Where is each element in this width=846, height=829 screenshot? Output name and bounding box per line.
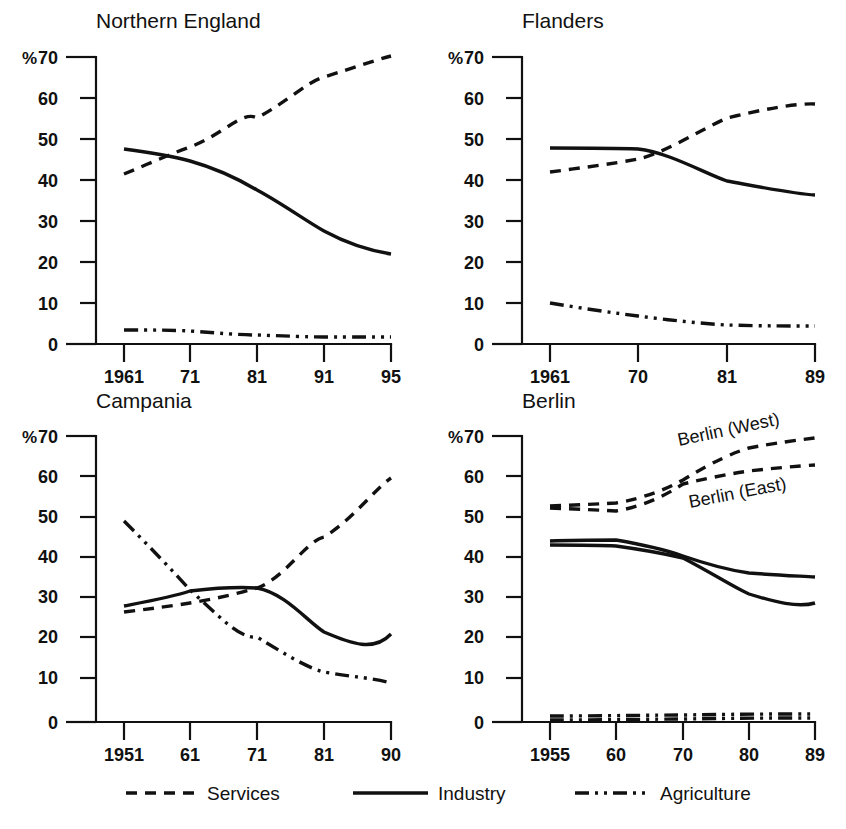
x-tick-label-80: 80 bbox=[739, 745, 759, 765]
x-tick-label-70: 70 bbox=[673, 745, 693, 765]
y-tick-label-20: 20 bbox=[38, 627, 58, 647]
x-tick-label-81: 81 bbox=[247, 367, 267, 387]
x-tick-label-89: 89 bbox=[805, 367, 825, 387]
panel-title-berlin: Berlin bbox=[522, 389, 576, 412]
panel-title-flanders: Flanders bbox=[522, 9, 604, 32]
y-tick-label-30: 30 bbox=[464, 587, 484, 607]
legend-label-agriculture: Agriculture bbox=[660, 783, 751, 804]
legend: Services Industry Agriculture bbox=[126, 783, 751, 804]
x-axis-campania: 1951 61 71 81 90 bbox=[96, 722, 401, 765]
y-tick-label-0: 0 bbox=[48, 335, 58, 355]
x-tick-label-91: 91 bbox=[314, 367, 334, 387]
y-tick-label-70: 70 bbox=[464, 427, 484, 447]
x-tick-label-70: 70 bbox=[628, 367, 648, 387]
series-line-agriculture bbox=[124, 330, 391, 337]
four-panel-line-chart-figure: Northern England % 70 60 50 40 30 20 10 … bbox=[0, 0, 846, 829]
panel-title-northern-england: Northern England bbox=[96, 9, 261, 32]
y-tick-label-40: 40 bbox=[38, 547, 58, 567]
y-axis-unit-label: % bbox=[448, 49, 463, 68]
y-axis-unit-label: % bbox=[22, 49, 37, 68]
y-tick-label-40: 40 bbox=[38, 171, 58, 191]
y-tick-label-0: 0 bbox=[48, 713, 58, 733]
series-line-agriculture-west bbox=[550, 718, 815, 720]
x-tick-label-1955: 1955 bbox=[530, 745, 570, 765]
series-line-industry bbox=[124, 149, 391, 254]
x-axis-northern-england: 1961 71 81 91 95 bbox=[96, 344, 401, 387]
y-tick-label-60: 60 bbox=[464, 89, 484, 109]
y-tick-label-10: 10 bbox=[38, 668, 58, 688]
y-tick-label-10: 10 bbox=[464, 294, 484, 314]
y-axis-unit-label: % bbox=[448, 428, 463, 447]
y-tick-label-40: 40 bbox=[464, 171, 484, 191]
legend-item-agriculture[interactable]: Agriculture bbox=[575, 783, 751, 804]
y-tick-label-70: 70 bbox=[38, 427, 58, 447]
y-tick-label-50: 50 bbox=[38, 130, 58, 150]
legend-item-industry[interactable]: Industry bbox=[353, 783, 506, 804]
y-tick-label-60: 60 bbox=[38, 467, 58, 487]
x-axis-flanders: 1961 70 81 89 bbox=[522, 344, 825, 387]
x-tick-label-1961: 1961 bbox=[530, 367, 570, 387]
y-tick-label-40: 40 bbox=[464, 547, 484, 567]
series-line-agriculture bbox=[124, 521, 391, 683]
panel-flanders: Flanders % 70 60 50 40 30 20 10 0 bbox=[448, 9, 825, 387]
series-line-industry bbox=[124, 588, 391, 645]
x-tick-label-89: 89 bbox=[805, 745, 825, 765]
y-axis-unit-label: % bbox=[22, 428, 37, 447]
x-tick-label-1951: 1951 bbox=[104, 745, 144, 765]
y-tick-label-20: 20 bbox=[464, 627, 484, 647]
x-tick-label-71: 71 bbox=[180, 367, 200, 387]
x-axis-berlin: 1955 60 70 80 89 bbox=[522, 722, 825, 765]
series-line-agriculture bbox=[550, 303, 815, 326]
series-line-services bbox=[124, 478, 391, 612]
y-axis-berlin: % 70 60 50 40 30 20 10 0 bbox=[448, 427, 522, 733]
series-line-agriculture-east bbox=[550, 714, 815, 716]
x-tick-label-71: 71 bbox=[247, 745, 267, 765]
y-tick-label-50: 50 bbox=[464, 507, 484, 527]
y-tick-label-30: 30 bbox=[464, 212, 484, 232]
legend-label-services: Services bbox=[207, 783, 280, 804]
y-axis-northern-england: % 70 60 50 40 30 20 10 0 bbox=[22, 48, 96, 355]
y-tick-label-60: 60 bbox=[38, 89, 58, 109]
y-tick-label-60: 60 bbox=[464, 467, 484, 487]
y-tick-label-30: 30 bbox=[38, 212, 58, 232]
y-tick-label-50: 50 bbox=[38, 507, 58, 527]
x-tick-label-95: 95 bbox=[381, 367, 401, 387]
series-line-industry bbox=[550, 148, 815, 195]
x-tick-label-1961: 1961 bbox=[104, 367, 144, 387]
x-tick-label-81: 81 bbox=[314, 745, 334, 765]
y-tick-label-70: 70 bbox=[464, 48, 484, 68]
x-tick-label-60: 60 bbox=[606, 745, 626, 765]
panel-northern-england: Northern England % 70 60 50 40 30 20 10 … bbox=[22, 9, 401, 387]
y-tick-label-10: 10 bbox=[38, 294, 58, 314]
x-tick-label-81: 81 bbox=[717, 367, 737, 387]
y-tick-label-50: 50 bbox=[464, 130, 484, 150]
y-tick-label-20: 20 bbox=[464, 253, 484, 273]
y-tick-label-0: 0 bbox=[474, 713, 484, 733]
panel-title-campania: Campania bbox=[96, 389, 192, 412]
x-tick-label-90: 90 bbox=[381, 745, 401, 765]
y-tick-label-70: 70 bbox=[38, 48, 58, 68]
y-tick-label-10: 10 bbox=[464, 668, 484, 688]
y-axis-flanders: % 70 60 50 40 30 20 10 0 bbox=[448, 48, 522, 355]
x-tick-label-61: 61 bbox=[180, 745, 200, 765]
legend-item-services[interactable]: Services bbox=[126, 783, 280, 804]
panel-berlin: Berlin % 70 60 50 40 30 20 10 0 bbox=[448, 389, 825, 765]
legend-label-industry: Industry bbox=[438, 783, 506, 804]
y-tick-label-0: 0 bbox=[474, 335, 484, 355]
y-tick-label-30: 30 bbox=[38, 587, 58, 607]
panel-campania: Campania % 70 60 50 40 30 20 10 0 bbox=[22, 389, 401, 765]
annotation-berlin-west: Berlin (West) bbox=[676, 409, 782, 450]
y-tick-label-20: 20 bbox=[38, 253, 58, 273]
y-axis-campania: % 70 60 50 40 30 20 10 0 bbox=[22, 427, 96, 733]
